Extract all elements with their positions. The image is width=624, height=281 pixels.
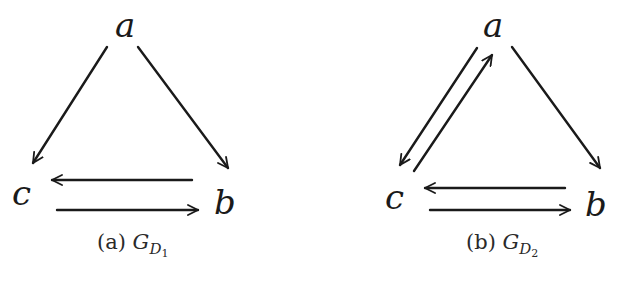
caption-sub: D xyxy=(149,240,161,258)
figure-a-node-b: b xyxy=(214,185,236,219)
caption-symbol: G xyxy=(503,230,520,254)
figure-b-caption: (b) GD2 xyxy=(466,232,538,259)
edge-a-to-b xyxy=(138,47,228,168)
edge-a-to-c xyxy=(400,48,477,165)
figure-a-node-a: a xyxy=(115,8,135,42)
figure-a-node-c: c xyxy=(12,176,31,210)
figure-a-caption: (a) GD1 xyxy=(97,232,168,259)
figure-b-node-b: b xyxy=(585,187,607,221)
edge-c-to-a xyxy=(414,55,492,171)
caption-symbol: G xyxy=(133,230,150,254)
figure-b-node-c: c xyxy=(385,180,404,214)
figure-a-edges xyxy=(33,47,228,210)
edge-a-to-b xyxy=(512,47,600,168)
edge-a-to-c xyxy=(33,47,107,163)
caption-prefix: (a) xyxy=(97,230,126,254)
caption-sub: D xyxy=(519,240,531,258)
caption-subsub: 2 xyxy=(531,247,538,260)
caption-prefix: (b) xyxy=(466,230,496,254)
figure-b-edges xyxy=(400,47,600,210)
figure-b-node-a: a xyxy=(483,8,503,42)
caption-subsub: 1 xyxy=(161,247,168,260)
